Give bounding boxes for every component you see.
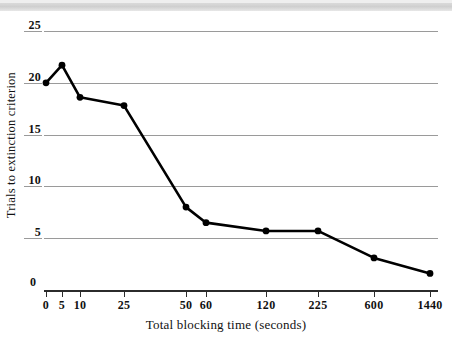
x-tick-label-600: 600	[365, 299, 384, 312]
x-tick-label-60: 60	[200, 299, 213, 312]
y-tick-label-10: 10	[29, 174, 41, 186]
plot-area: 252015105	[44, 30, 438, 290]
y-tick-rule-10	[24, 186, 42, 187]
x-tick-1440	[430, 290, 431, 297]
x-tick-10	[80, 290, 81, 297]
y-tick-rule-25	[24, 31, 42, 32]
x-tick-60	[206, 290, 207, 297]
y-tick-label-15: 15	[29, 123, 41, 135]
y-tick-rule-5	[24, 238, 42, 239]
gridline-10	[44, 186, 438, 187]
x-tick-label-10: 10	[74, 299, 87, 312]
x-tick-600	[374, 290, 375, 297]
x-tick-5	[62, 290, 63, 297]
figure-canvas: Trials to extinction criterion 252015105…	[0, 0, 452, 352]
x-tick-0	[46, 290, 47, 297]
x-tick-label-25: 25	[118, 299, 131, 312]
y-tick-rule-15	[24, 135, 42, 136]
y-tick-label-20: 20	[29, 71, 41, 83]
y-tick-rule-20	[24, 83, 42, 84]
gridline-15	[44, 135, 438, 136]
x-tick-label-5: 5	[59, 299, 65, 312]
gridline-20	[44, 83, 438, 84]
y-tick-label-0: 0	[30, 276, 36, 288]
x-tick-label-225: 225	[309, 299, 328, 312]
x-tick-label-0: 0	[43, 299, 49, 312]
gridline-25	[44, 31, 438, 32]
x-tick-50	[186, 290, 187, 297]
y-tick-label-5: 5	[35, 226, 41, 238]
x-tick-225	[318, 290, 319, 297]
x-tick-label-50: 50	[180, 299, 193, 312]
gridline-5	[44, 238, 438, 239]
x-tick-label-120: 120	[257, 299, 276, 312]
x-tick-label-1440: 1440	[417, 299, 442, 312]
x-tick-120	[266, 290, 267, 297]
x-axis-title: Total blocking time (seconds)	[0, 317, 452, 333]
y-axis-title: Trials to extinction criterion	[4, 72, 22, 218]
x-tick-25	[124, 290, 125, 297]
y-tick-label-25: 25	[29, 19, 41, 31]
x-axis-line	[44, 290, 438, 292]
scan-artifact-band	[0, 3, 452, 11]
